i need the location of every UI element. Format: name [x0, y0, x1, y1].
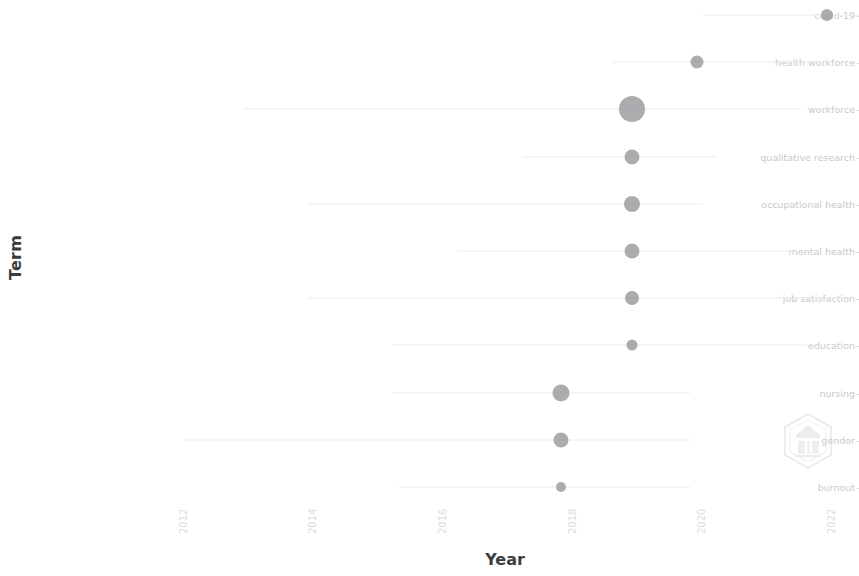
row-range-line [185, 439, 691, 440]
data-point-dot[interactable] [625, 291, 639, 305]
data-point-dot[interactable] [552, 384, 569, 401]
data-point-dot[interactable] [690, 56, 703, 69]
scatter-plot-area: Term covid-19health workforceworkforcequ… [0, 0, 859, 576]
chart-root: Term covid-19health workforceworkforcequ… [0, 0, 859, 576]
hexagon-logo-watermark-icon [782, 412, 834, 470]
row-range-line [399, 487, 691, 488]
y-tick-label-occupational-health: occupational health [731, 198, 859, 209]
x-tick-label-2012: 2012 [178, 509, 192, 555]
row-range-line [703, 15, 859, 16]
row-range-line [522, 156, 716, 157]
row-range-line [308, 298, 840, 299]
row-range-line [613, 62, 820, 63]
data-point-dot[interactable] [627, 340, 638, 351]
y-axis-title: Term [4, 222, 28, 292]
y-tick-label-nursing: nursing [731, 387, 859, 398]
y-tick-label-burnout: burnout [731, 482, 859, 493]
x-tick-label-2014: 2014 [307, 509, 321, 555]
data-point-dot[interactable] [625, 149, 640, 164]
x-tick-label-2022: 2022 [826, 509, 840, 555]
row-range-line [243, 109, 800, 110]
x-tick-label-2018: 2018 [567, 509, 581, 555]
row-range-line [308, 203, 703, 204]
x-tick-label-2020: 2020 [696, 509, 710, 555]
data-point-dot[interactable] [553, 432, 568, 447]
data-point-dot[interactable] [624, 196, 640, 212]
row-range-line [392, 392, 690, 393]
data-point-dot[interactable] [556, 482, 566, 492]
x-axis-title: Year [455, 550, 555, 569]
data-point-dot[interactable] [821, 9, 833, 21]
row-range-line [392, 345, 807, 346]
x-tick-label-2016: 2016 [437, 509, 451, 555]
data-point-dot[interactable] [625, 244, 640, 259]
data-point-dot[interactable] [619, 96, 645, 122]
y-tick-label-qualitative-research: qualitative research [731, 151, 859, 162]
